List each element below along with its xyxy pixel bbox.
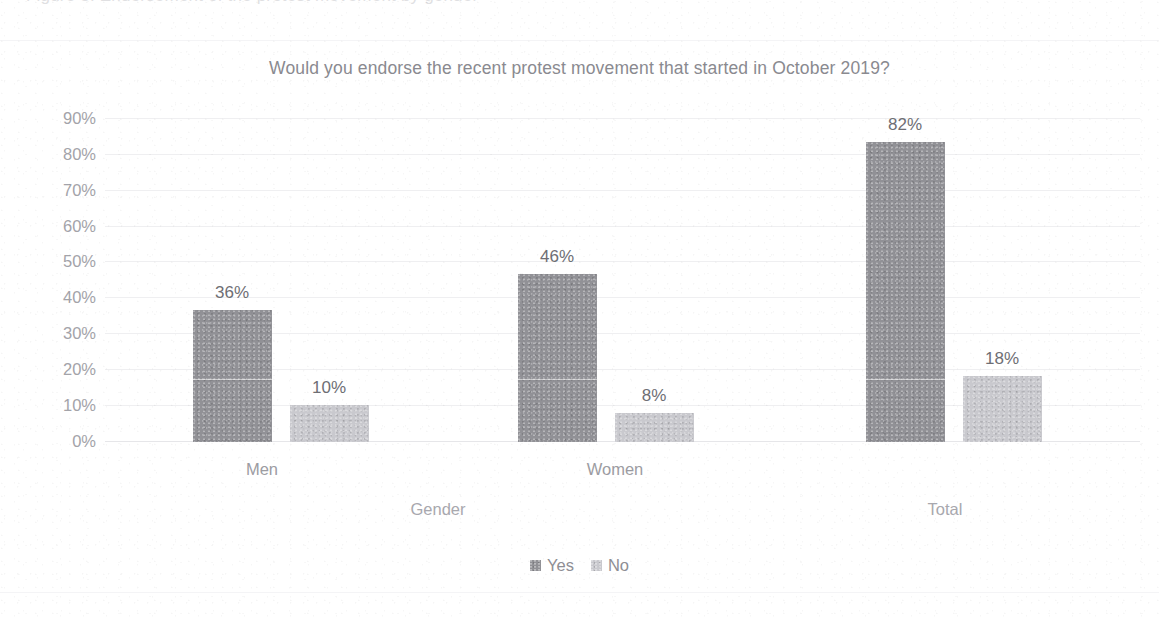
bar-label-men-no: 10% (312, 378, 346, 398)
legend-swatch-no-icon (591, 560, 602, 571)
bar-men-yes[interactable] (193, 310, 272, 442)
bar-label-women-yes: 46% (540, 247, 574, 267)
legend-item-yes[interactable]: Yes (530, 556, 574, 575)
x-axis-category-women: Women (587, 460, 644, 479)
chart-legend: Yes No (0, 556, 1159, 575)
x-axis-category-men: Men (246, 460, 278, 479)
x-axis-group-gender: Gender (410, 500, 465, 519)
bar-total-no[interactable] (963, 376, 1042, 442)
y-axis-tick-70: 70% (36, 181, 96, 200)
bar-label-men-yes: 36% (215, 283, 249, 303)
y-axis-tick-40: 40% (36, 288, 96, 307)
bar-women-no[interactable] (615, 413, 694, 442)
gridline-90 (105, 118, 1140, 119)
scan-seam (193, 379, 272, 380)
scan-edge-top (0, 40, 1159, 41)
bar-men-yes-fill (193, 310, 272, 442)
scan-edge-bottom (0, 592, 1159, 593)
bar-label-total-yes: 82% (888, 115, 922, 135)
y-axis-tick-30: 30% (36, 324, 96, 343)
gridline-70 (105, 190, 1140, 191)
gridline-60 (105, 226, 1140, 227)
bar-men-no[interactable] (290, 405, 369, 442)
legend-swatch-yes-icon (530, 560, 541, 571)
y-axis-tick-80: 80% (36, 145, 96, 164)
plot-area: 36% 10% 46% 8% 82% 18% (105, 112, 1140, 442)
gridline-50 (105, 261, 1140, 262)
y-axis-tick-90: 90% (36, 109, 96, 128)
bar-label-total-no: 18% (985, 349, 1019, 369)
legend-item-no[interactable]: No (591, 556, 629, 575)
y-axis-tick-0: 0% (36, 432, 96, 451)
x-axis-group-total: Total (928, 500, 963, 519)
scan-top-ghost-text: Figure 3. Endorsement of the protest mov… (0, 0, 1159, 8)
bar-total-no-fill (963, 376, 1042, 442)
legend-label-yes: Yes (547, 556, 574, 575)
y-axis-tick-60: 60% (36, 217, 96, 236)
y-axis-tick-20: 20% (36, 360, 96, 379)
bar-total-yes-fill (866, 142, 945, 442)
gridline-80 (105, 154, 1140, 155)
chart-title: Would you endorse the recent protest mov… (0, 58, 1159, 79)
y-axis-tick-50: 50% (36, 252, 96, 271)
scan-seam (518, 379, 597, 380)
bar-label-women-no: 8% (642, 386, 667, 406)
ghost-header-text: Figure 3. Endorsement of the protest mov… (26, 0, 478, 6)
legend-label-no: No (608, 556, 629, 575)
bar-women-no-fill (615, 413, 694, 442)
bar-total-yes[interactable] (866, 142, 945, 442)
bar-men-no-fill (290, 405, 369, 442)
gridline-40 (105, 297, 1140, 298)
bar-women-yes-fill (518, 274, 597, 442)
bar-women-yes[interactable] (518, 274, 597, 442)
scan-seam (866, 379, 945, 380)
y-axis-tick-10: 10% (36, 396, 96, 415)
